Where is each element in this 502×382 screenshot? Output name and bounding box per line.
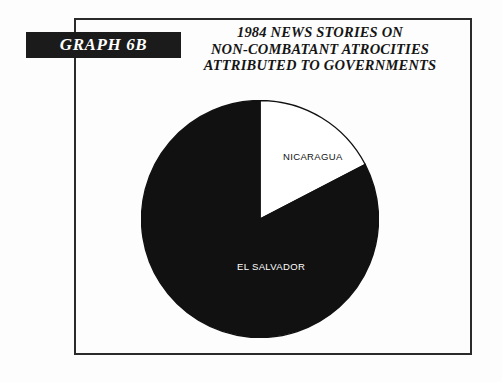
graph-number-banner: GRAPH 6B	[26, 32, 181, 58]
pie-chart	[141, 100, 379, 338]
pie-slice-label-nicaragua: NICARAGUA	[283, 151, 343, 162]
pie-slice-label-el-salvador: EL SALVADOR	[237, 261, 305, 272]
chart-title-line-2: NON-COMBATANT ATROCITIES	[186, 41, 454, 58]
chart-title: 1984 NEWS STORIES ON NON-COMBATANT ATROC…	[186, 24, 454, 74]
graph-number-label: GRAPH 6B	[60, 35, 147, 55]
graph-page: GRAPH 6B 1984 NEWS STORIES ON NON-COMBAT…	[0, 0, 502, 382]
chart-title-line-3: ATTRIBUTED TO GOVERNMENTS	[186, 57, 454, 74]
chart-title-line-1: 1984 NEWS STORIES ON	[186, 24, 454, 41]
pie-chart-svg	[141, 100, 379, 338]
